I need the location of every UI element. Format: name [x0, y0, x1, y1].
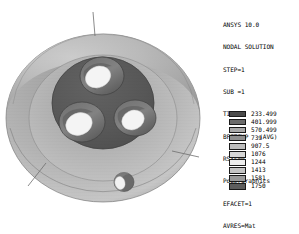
info-line-avres: AVRES=Mat [223, 222, 299, 229]
contour-swatch [229, 111, 246, 118]
contour-band[interactable]: 907.5 [229, 142, 299, 150]
contour-band[interactable]: 1244 [229, 158, 299, 166]
contour-swatch [229, 159, 246, 166]
contour-swatch [229, 127, 246, 134]
contour-swatch [229, 119, 246, 126]
contour-value: 1581 [251, 174, 266, 182]
info-line-step: STEP=1 [223, 66, 299, 73]
disc-flange-model [0, 0, 208, 234]
contour-band[interactable]: 1581 [229, 174, 299, 182]
contour-value: 570.499 [251, 126, 277, 134]
contour-value: 401.999 [251, 118, 277, 126]
contour-swatch [229, 167, 246, 174]
bore-lower-left [59, 102, 105, 142]
contour-band[interactable]: 233.499 [229, 110, 299, 118]
bore-lower-right [114, 100, 156, 136]
contour-value: 1750 [251, 182, 266, 190]
contour-value: 1076 [251, 150, 266, 158]
contour-swatch [229, 151, 246, 158]
contour-value: 233.499 [251, 110, 277, 118]
contour-legend[interactable]: 233.499 401.999 570.499 739 907.5 1076 1… [229, 110, 299, 190]
contour-value: 1244 [251, 158, 266, 166]
contour-swatch [229, 175, 246, 182]
bore-upper [80, 57, 124, 95]
contour-value: 739 [251, 134, 262, 142]
ansys-plot-window: ANSYS 10.0 NODAL SOLUTION STEP=1 SUB =1 … [0, 0, 299, 234]
contour-band[interactable]: 401.999 [229, 118, 299, 126]
info-line-sub: SUB =1 [223, 88, 299, 95]
contour-swatch [229, 143, 246, 150]
contour-swatch [229, 135, 246, 142]
contour-band[interactable]: 1076 [229, 150, 299, 158]
contour-value: 907.5 [251, 142, 269, 150]
contour-band[interactable]: 1750 [229, 182, 299, 190]
info-line-ansys-version: ANSYS 10.0 [223, 21, 299, 28]
model-viewport[interactable] [0, 0, 208, 234]
bore-small-flange [114, 172, 134, 192]
contour-band[interactable]: 1413 [229, 166, 299, 174]
contour-value: 1413 [251, 166, 266, 174]
contour-band[interactable]: 570.499 [229, 126, 299, 134]
info-line-solution-type: NODAL SOLUTION [223, 43, 299, 50]
contour-band[interactable]: 739 [229, 134, 299, 142]
contour-swatch [229, 183, 246, 190]
info-line-efacet: EFACET=1 [223, 200, 299, 207]
